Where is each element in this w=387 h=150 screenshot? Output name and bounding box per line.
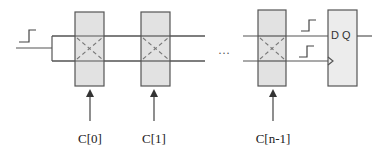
flipflop-label: D Q: [331, 29, 351, 41]
control-label-cn-1: C[n-1]: [256, 131, 291, 146]
delay-cell-n-1: [258, 10, 286, 86]
arrow-up-icon: [86, 89, 94, 97]
ellipsis: …: [218, 43, 230, 57]
control-label-c0: C[0]: [78, 131, 102, 146]
delay-cell-1: [141, 12, 170, 86]
control-label-c1: C[1]: [142, 131, 166, 146]
delay-cell-0: [52, 12, 205, 86]
d-flipflop: D Q: [328, 10, 357, 86]
arrow-up-icon: [269, 89, 277, 97]
input-step-icon: [19, 30, 36, 42]
arrow-up-icon: [150, 89, 158, 97]
delay-chain-diagram: … D Q: [0, 0, 387, 150]
data-step-icon: [301, 20, 316, 31]
control-arrows: [86, 89, 277, 121]
clock-step-icon: [299, 46, 314, 57]
input-wire: [16, 36, 52, 61]
